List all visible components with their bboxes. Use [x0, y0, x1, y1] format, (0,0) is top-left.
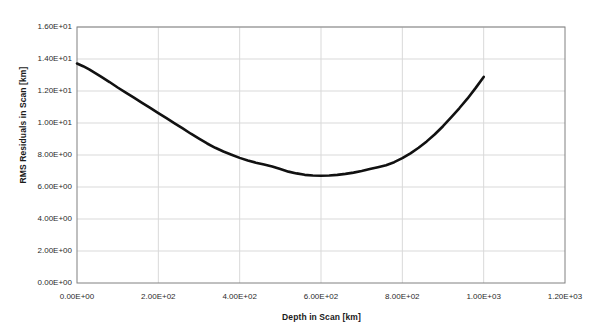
x-tick-label: 0.00E+00 — [37, 292, 117, 301]
chart-container: RMS Residuals in Scan [km] 0.00E+002.00E… — [0, 0, 603, 336]
x-tick-label: 2.00E+02 — [118, 292, 198, 301]
x-tick-label: 4.00E+02 — [200, 292, 280, 301]
plot-area — [0, 0, 603, 336]
x-tick-label: 1.00E+03 — [444, 292, 524, 301]
x-tick-label: 6.00E+02 — [281, 292, 361, 301]
x-tick-label: 1.20E+03 — [525, 292, 603, 301]
data-series-line — [77, 63, 484, 175]
x-tick-label: 8.00E+02 — [362, 292, 442, 301]
